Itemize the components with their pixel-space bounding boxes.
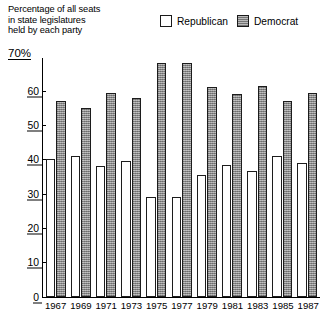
y-tick-label-50: 50 [27, 121, 42, 132]
y-axis-top-label: 70% [8, 48, 31, 60]
bar-democrat-1969[interactable] [81, 108, 91, 297]
x-axis-line [42, 297, 320, 298]
bar-democrat-1971[interactable] [106, 93, 116, 297]
y-tick-label-40: 40 [27, 155, 42, 166]
y-tick-mark-0 [42, 297, 46, 298]
bar-group-1969 [68, 58, 93, 297]
bar-democrat-1979[interactable] [207, 87, 217, 296]
legend-item-republican: Republican [160, 15, 228, 27]
shaded-square-icon [237, 15, 249, 27]
bar-republican-1987[interactable] [297, 163, 307, 297]
legend-item-democrat: Democrat [237, 15, 298, 27]
bar-republican-1981[interactable] [222, 165, 232, 297]
bar-group-1981 [219, 58, 244, 297]
bar-republican-1971[interactable] [96, 166, 106, 296]
bar-series-container [43, 58, 320, 297]
bar-democrat-1985[interactable] [283, 101, 293, 296]
bar-republican-1985[interactable] [272, 156, 282, 297]
caption-line-2: in state legislatures [8, 15, 158, 26]
legend-label-democrat: Democrat [254, 16, 298, 27]
bar-democrat-1983[interactable] [258, 86, 268, 297]
x-tick-label-1981: 1981 [220, 300, 245, 311]
x-tick-label-1973: 1973 [119, 300, 144, 311]
x-tick-label-1987: 1987 [296, 300, 321, 311]
chart-page: Percentage of all seats in state legisla… [0, 0, 326, 334]
bar-republican-1975[interactable] [146, 197, 156, 296]
x-tick-label-1967: 1967 [43, 300, 68, 311]
x-tick-label-1969: 1969 [68, 300, 93, 311]
y-tick-label-10: 10 [27, 258, 42, 269]
bar-group-1987 [295, 58, 320, 297]
bar-group-1977 [169, 58, 194, 297]
caption-line-3: held by each party [8, 25, 158, 36]
bar-republican-1979[interactable] [197, 175, 207, 297]
bar-democrat-1973[interactable] [132, 98, 142, 297]
bar-democrat-1967[interactable] [56, 101, 66, 296]
plot-area: 0102030405060 [42, 58, 320, 298]
legend-label-republican: Republican [177, 16, 228, 27]
bar-democrat-1981[interactable] [232, 94, 242, 296]
bar-group-1975 [144, 58, 169, 297]
x-tick-label-1979: 1979 [195, 300, 220, 311]
x-tick-label-1971: 1971 [94, 300, 119, 311]
y-tick-label-60: 60 [27, 86, 42, 97]
empty-square-icon [160, 15, 172, 27]
bar-republican-1977[interactable] [172, 197, 182, 296]
x-axis-labels: 1967196919711973197519771979198119831985… [43, 300, 321, 311]
bar-republican-1983[interactable] [247, 171, 257, 296]
x-tick-label-1983: 1983 [245, 300, 270, 311]
bar-republican-1967[interactable] [46, 159, 56, 296]
x-tick-label-1977: 1977 [169, 300, 194, 311]
bar-group-1985 [270, 58, 295, 297]
bar-republican-1973[interactable] [121, 161, 131, 296]
y-tick-label-0: 0 [33, 292, 42, 303]
x-tick-label-1975: 1975 [144, 300, 169, 311]
y-tick-label-30: 30 [27, 189, 42, 200]
bar-democrat-1977[interactable] [182, 63, 192, 296]
y-tick-label-20: 20 [27, 223, 42, 234]
chart-caption: Percentage of all seats in state legisla… [8, 4, 158, 36]
bar-democrat-1987[interactable] [308, 93, 318, 297]
x-tick-label-1985: 1985 [270, 300, 295, 311]
chart-legend: Republican Democrat [160, 15, 298, 27]
bar-democrat-1975[interactable] [157, 63, 167, 296]
bar-group-1967 [43, 58, 68, 297]
caption-line-1: Percentage of all seats [8, 4, 158, 15]
bar-republican-1969[interactable] [71, 156, 81, 297]
bar-group-1973 [119, 58, 144, 297]
bar-group-1971 [93, 58, 118, 297]
bar-group-1983 [245, 58, 270, 297]
bar-group-1979 [194, 58, 219, 297]
